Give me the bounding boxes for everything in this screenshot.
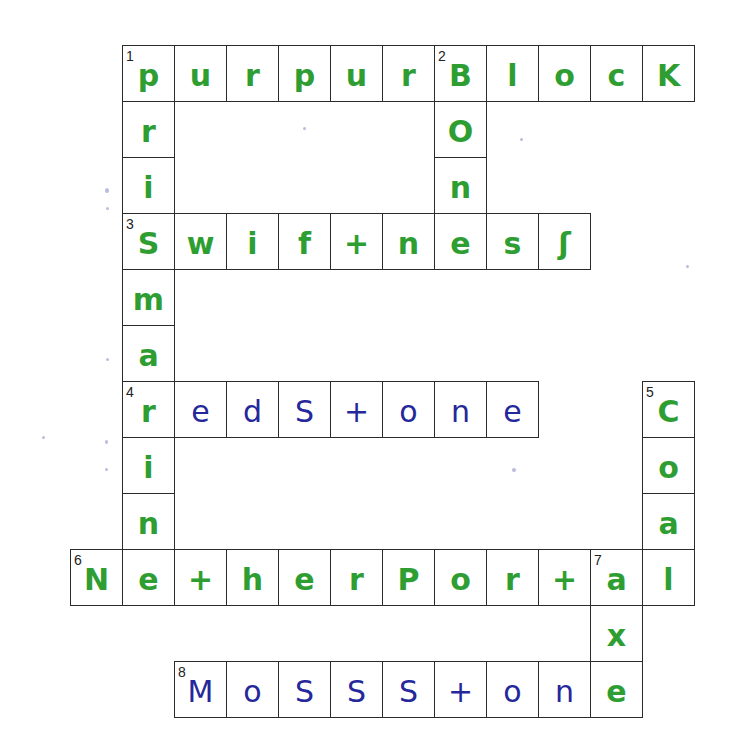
- scan-artifact: [42, 436, 45, 439]
- clue-number: 5: [646, 384, 654, 400]
- crossword-cell[interactable]: 3S: [122, 213, 175, 270]
- crossword-cell[interactable]: ʃ: [538, 213, 591, 270]
- crossword-cell[interactable]: n: [434, 157, 487, 214]
- clue-number: 4: [126, 384, 134, 400]
- cell-letter: d: [243, 397, 262, 427]
- crossword-cell[interactable]: S: [330, 661, 383, 718]
- crossword-cell[interactable]: i: [122, 437, 175, 494]
- cell-letter: i: [247, 229, 257, 259]
- crossword-cell[interactable]: s: [486, 213, 539, 270]
- crossword-cell[interactable]: n: [382, 213, 435, 270]
- cell-letter: f: [298, 229, 311, 259]
- crossword-cell[interactable]: r: [330, 549, 383, 606]
- crossword-cell[interactable]: l: [486, 45, 539, 102]
- crossword-cell[interactable]: p: [278, 45, 331, 102]
- crossword-cell[interactable]: o: [538, 45, 591, 102]
- crossword-cell[interactable]: 6N: [70, 549, 123, 606]
- crossword-cell[interactable]: S: [278, 661, 331, 718]
- crossword-cell[interactable]: r: [486, 549, 539, 606]
- crossword-cell[interactable]: x: [590, 605, 643, 662]
- clue-number: 3: [126, 216, 134, 232]
- crossword-cell[interactable]: 4r: [122, 381, 175, 438]
- crossword-cell[interactable]: e: [278, 549, 331, 606]
- crossword-cell[interactable]: 2B: [434, 45, 487, 102]
- cell-letter: o: [658, 453, 679, 483]
- crossword-cell[interactable]: o: [434, 549, 487, 606]
- cell-letter: x: [607, 621, 626, 651]
- crossword-cell[interactable]: S: [382, 661, 435, 718]
- crossword-cell[interactable]: O: [434, 101, 487, 158]
- crossword-cell[interactable]: e: [486, 381, 539, 438]
- cell-letter: S: [138, 229, 160, 259]
- cell-letter: K: [657, 61, 680, 91]
- crossword-cell[interactable]: +: [174, 549, 227, 606]
- crossword-cell[interactable]: i: [226, 213, 279, 270]
- crossword-cell[interactable]: +: [538, 549, 591, 606]
- crossword-cell[interactable]: m: [122, 269, 175, 326]
- cell-letter: a: [658, 509, 678, 539]
- crossword-cell[interactable]: K: [642, 45, 695, 102]
- crossword-cell[interactable]: f: [278, 213, 331, 270]
- cell-letter: e: [294, 565, 314, 595]
- cell-letter: r: [141, 397, 156, 427]
- cell-letter: S: [347, 677, 366, 707]
- crossword-cell[interactable]: r: [122, 101, 175, 158]
- crossword-cell[interactable]: o: [382, 381, 435, 438]
- crossword-cell[interactable]: n: [538, 661, 591, 718]
- crossword-cell[interactable]: S: [278, 381, 331, 438]
- scan-artifact: [512, 468, 516, 472]
- cell-letter: B: [449, 61, 472, 91]
- cell-letter: e: [191, 397, 209, 427]
- cell-letter: O: [448, 117, 474, 147]
- cell-letter: S: [295, 677, 314, 707]
- cell-letter: M: [188, 677, 214, 707]
- crossword-cell[interactable]: w: [174, 213, 227, 270]
- crossword-cell[interactable]: l: [642, 549, 695, 606]
- cell-letter: a: [606, 565, 626, 595]
- crossword-cell[interactable]: o: [642, 437, 695, 494]
- cell-letter: n: [138, 509, 159, 539]
- cell-letter: w: [187, 229, 215, 259]
- crossword-cell[interactable]: e: [174, 381, 227, 438]
- crossword-cell[interactable]: i: [122, 157, 175, 214]
- crossword-cell[interactable]: u: [174, 45, 227, 102]
- crossword-cell[interactable]: o: [226, 661, 279, 718]
- crossword-cell[interactable]: r: [226, 45, 279, 102]
- crossword-cell[interactable]: e: [434, 213, 487, 270]
- clue-number: 7: [594, 552, 602, 568]
- scan-artifact: [106, 358, 109, 361]
- crossword-cell[interactable]: a: [642, 493, 695, 550]
- crossword-cell[interactable]: n: [434, 381, 487, 438]
- clue-number: 1: [126, 48, 134, 64]
- cell-letter: r: [245, 61, 260, 91]
- crossword-cell[interactable]: d: [226, 381, 279, 438]
- cell-letter: C: [657, 397, 679, 427]
- crossword-cell[interactable]: r: [382, 45, 435, 102]
- cell-letter: p: [294, 61, 315, 91]
- crossword-cell[interactable]: 1p: [122, 45, 175, 102]
- crossword-cell[interactable]: +: [330, 213, 383, 270]
- crossword-cell[interactable]: u: [330, 45, 383, 102]
- crossword-cell[interactable]: +: [330, 381, 383, 438]
- cell-letter: l: [507, 61, 517, 91]
- cell-letter: r: [505, 565, 520, 595]
- cell-letter: o: [450, 565, 471, 595]
- crossword-cell[interactable]: 7a: [590, 549, 643, 606]
- cell-letter: r: [401, 61, 416, 91]
- cell-letter: l: [663, 565, 673, 595]
- crossword-cell[interactable]: n: [122, 493, 175, 550]
- crossword-cell[interactable]: e: [590, 661, 643, 718]
- crossword-cell[interactable]: 5C: [642, 381, 695, 438]
- crossword-cell[interactable]: h: [226, 549, 279, 606]
- crossword-cell[interactable]: o: [486, 661, 539, 718]
- crossword-cell[interactable]: a: [122, 325, 175, 382]
- cell-letter: n: [451, 397, 470, 427]
- cell-letter: N: [84, 565, 109, 595]
- crossword-cell[interactable]: +: [434, 661, 487, 718]
- crossword-cell[interactable]: c: [590, 45, 643, 102]
- crossword-cell[interactable]: 8M: [174, 661, 227, 718]
- cell-letter: S: [295, 397, 314, 427]
- cell-letter: s: [504, 229, 522, 259]
- crossword-cell[interactable]: e: [122, 549, 175, 606]
- crossword-cell[interactable]: P: [382, 549, 435, 606]
